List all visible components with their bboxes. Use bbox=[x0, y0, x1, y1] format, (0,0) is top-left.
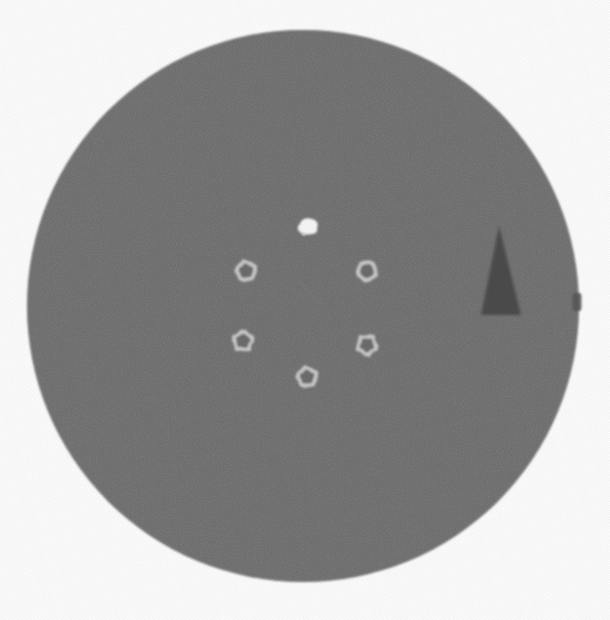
edge-marker-notch bbox=[573, 293, 582, 311]
scan-viewport bbox=[0, 0, 610, 620]
scan-image bbox=[0, 0, 610, 620]
edge-notch-group bbox=[573, 293, 582, 311]
